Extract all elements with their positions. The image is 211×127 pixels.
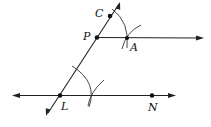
point-a [125,36,129,40]
point-l [58,93,63,98]
point-p [95,35,100,40]
arrowhead-top-icon [116,2,121,10]
transversal-line [46,2,120,116]
label-c: C [95,7,104,20]
label-a: A [129,41,138,54]
arc-at-p [112,9,127,48]
point-c [108,14,113,19]
arrowhead-right-icon [196,36,204,41]
arrowhead-right-icon [168,93,176,98]
ray-pa [97,36,204,41]
label-n: N [147,101,158,114]
label-l: L [60,100,68,113]
label-p: P [82,30,91,43]
arrowhead-left-icon [12,93,20,98]
arrowhead-bottom-icon [46,108,51,116]
geometry-diagram: C P A L N [0,0,211,127]
point-n [150,93,155,98]
